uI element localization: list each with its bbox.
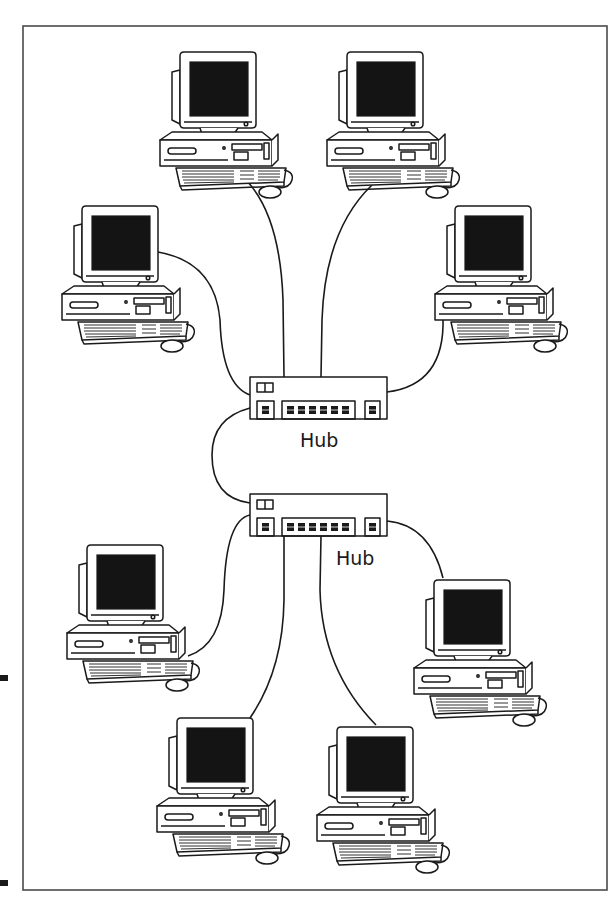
hub-device-icon: [250, 377, 387, 419]
cable-pc-5-hub-2: [188, 515, 250, 656]
desktop-computer-icon: [414, 580, 546, 726]
figure-frame: [23, 26, 607, 890]
cable-pc-1-hub-1: [246, 180, 284, 377]
margin-mark-bottom: [0, 880, 8, 886]
desktop-computer-icon: [157, 718, 289, 864]
hub-2: [250, 494, 387, 536]
cable-pc-4-hub-1: [387, 318, 443, 392]
desktop-computer-icon: [62, 206, 194, 352]
desktop-computer-icon: [327, 52, 459, 198]
computer-pc-8: [317, 727, 449, 873]
cable-pc-7-hub-2: [250, 536, 284, 718]
desktop-computer-icon: [67, 545, 199, 691]
network-cables: [158, 180, 443, 725]
computer-pc-1: [160, 52, 292, 198]
desktop-computer-icon: [317, 727, 449, 873]
hub-1-label: Hub: [300, 429, 338, 451]
desktop-computer-icon: [160, 52, 292, 198]
hub-1: [250, 377, 387, 419]
cable-pc-6-hub-2: [387, 521, 443, 578]
computer-pc-6: [414, 580, 546, 726]
hub-2-label: Hub: [336, 547, 374, 569]
computer-pc-5: [67, 545, 199, 691]
cable-hub-1-hub-2: [212, 408, 250, 503]
cable-pc-2-hub-1: [321, 185, 372, 377]
computer-pc-3: [62, 206, 194, 352]
hub-device-icon: [250, 494, 387, 536]
network-diagram: Hub Hub: [0, 0, 614, 897]
desktop-computer-icon: [435, 206, 567, 352]
computer-pc-4: [435, 206, 567, 352]
computer-pc-7: [157, 718, 289, 864]
margin-mark-top: [0, 675, 8, 681]
computer-pc-2: [327, 52, 459, 198]
